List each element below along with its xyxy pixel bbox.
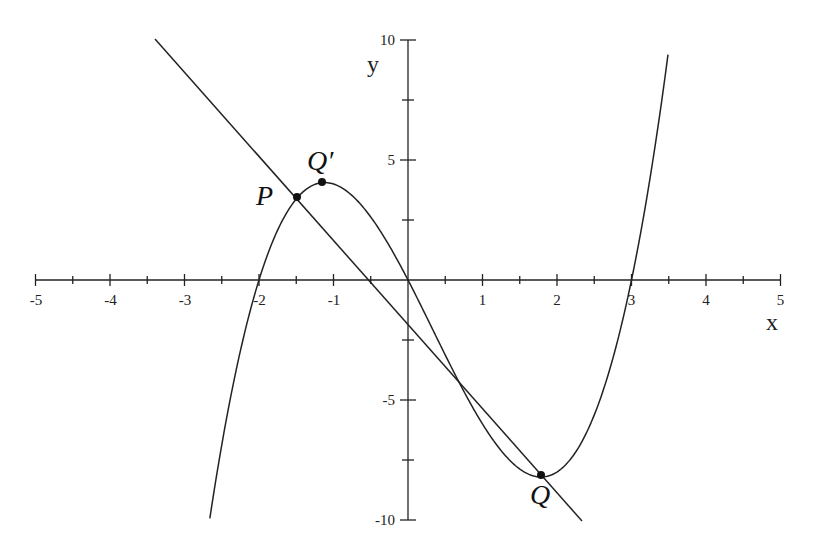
plot-canvas: -5 -4 -3 -2 -1 1 2 3 4 5 10 5 -5 -10 y x…: [0, 0, 817, 558]
x-tick-label: 4: [702, 292, 710, 308]
x-tick-label: -1: [328, 292, 341, 308]
point-q-label: Q: [530, 479, 550, 510]
x-tick-label: 5: [777, 292, 785, 308]
point-q-prime-dot: [318, 178, 326, 186]
point-q-dot: [537, 471, 545, 479]
x-tick-label: 1: [479, 292, 487, 308]
point-p-dot: [293, 193, 301, 201]
x-axis-label: x: [766, 309, 778, 335]
x-tick-label: -3: [179, 292, 192, 308]
x-tick-label: 2: [553, 292, 561, 308]
y-axis-label: y: [367, 51, 379, 77]
y-tick-label: 5: [388, 152, 396, 168]
x-tick-label: -4: [104, 292, 117, 308]
y-tick-label: -5: [383, 392, 396, 408]
y-tick-label: -10: [375, 512, 395, 528]
point-p-label: P: [255, 180, 273, 211]
x-tick-label: -5: [30, 292, 43, 308]
point-q-prime-label: Q′: [307, 145, 334, 176]
y-tick-label: 10: [380, 32, 395, 48]
cubic-curve: [210, 55, 668, 519]
x-tick-labels: -5 -4 -3 -2 -1 1 2 3 4 5: [30, 292, 785, 308]
